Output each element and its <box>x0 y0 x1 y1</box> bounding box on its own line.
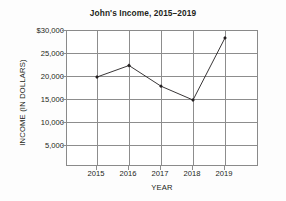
x-axis-title: YEAR <box>66 183 258 192</box>
y-tick-label: 5,000 <box>8 141 64 150</box>
y-tick-label: 20,000 <box>8 72 64 81</box>
data-point-marker <box>223 36 227 40</box>
series-polyline <box>97 38 225 100</box>
chart-title: John's Income, 2015–2019 <box>0 8 286 18</box>
y-tick-label: 25,000 <box>8 49 64 58</box>
y-tick-label: 10,000 <box>8 118 64 127</box>
y-tick-label: $30,000 <box>8 26 64 35</box>
series-markers <box>95 36 227 102</box>
x-tick-label: 2019 <box>204 169 244 178</box>
plot-area <box>66 30 258 166</box>
data-series-line <box>67 31 259 167</box>
y-tick-label: 15,000 <box>8 95 64 104</box>
data-point-marker <box>191 98 195 102</box>
data-point-marker <box>95 75 99 79</box>
line-chart-figure: John's Income, 2015–2019 INCOME (IN DOLL… <box>0 0 286 201</box>
